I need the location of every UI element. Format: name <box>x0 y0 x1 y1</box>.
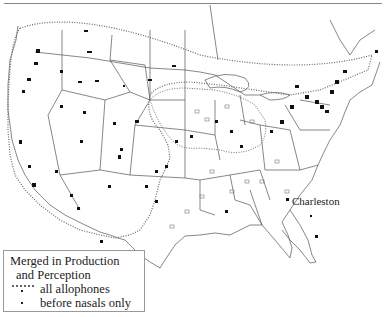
legend-item-label: all allophones <box>40 282 110 296</box>
charleston-marker <box>286 198 289 201</box>
isogloss-inner <box>150 88 266 153</box>
legend-item-all-allophones: all allophones <box>10 282 138 296</box>
city-label-charleston: Charleston <box>292 195 340 207</box>
legend-item-before-nasals: before nasals only <box>10 296 138 310</box>
legend-item-label: before nasals only <box>40 296 131 310</box>
small-dot-icon <box>10 297 40 309</box>
dotted-line-icon <box>10 283 40 295</box>
legend-title-line1: Merged in Production <box>10 254 138 268</box>
map-legend: Merged in Production and Perception all … <box>3 250 145 312</box>
state-boundaries <box>8 5 380 268</box>
survey-points <box>19 30 378 243</box>
legend-title-line2: and Perception <box>10 268 138 282</box>
open-survey-points <box>170 105 289 228</box>
